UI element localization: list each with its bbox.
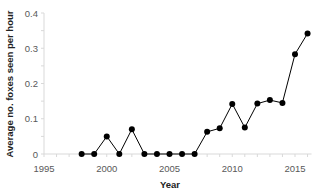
data-point-marker xyxy=(292,51,298,57)
data-point-marker xyxy=(116,151,122,157)
series-line xyxy=(82,33,308,154)
data-point-marker xyxy=(129,126,135,132)
data-point-marker xyxy=(192,151,198,157)
data-series xyxy=(79,30,311,157)
data-point-marker xyxy=(229,101,235,107)
data-point-marker xyxy=(91,151,97,157)
data-point-marker xyxy=(267,97,273,103)
data-point-marker xyxy=(204,129,210,135)
data-point-marker xyxy=(242,125,248,131)
y-tick-label: 0.3 xyxy=(25,43,38,54)
axes xyxy=(41,13,312,157)
line-chart: 00.10.20.30.419952000200520102015 Year A… xyxy=(0,0,317,195)
y-axis-title: Average no. foxes seen per hour xyxy=(4,10,15,157)
data-point-marker xyxy=(104,133,110,139)
x-tick-label: 2010 xyxy=(222,163,243,174)
y-tick-label: 0.4 xyxy=(25,8,38,19)
data-point-marker xyxy=(217,125,223,131)
y-tick-label: 0.1 xyxy=(25,113,38,124)
x-axis-title: Year xyxy=(160,179,180,190)
x-tick-label: 2005 xyxy=(159,163,180,174)
data-point-marker xyxy=(179,151,185,157)
x-tick-label: 1995 xyxy=(33,163,54,174)
tick-labels: 00.10.20.30.419952000200520102015 xyxy=(25,8,306,175)
x-tick-label: 2000 xyxy=(96,163,117,174)
data-point-marker xyxy=(279,100,285,106)
y-tick-label: 0 xyxy=(33,149,38,160)
data-point-marker xyxy=(305,30,311,36)
data-point-marker xyxy=(141,151,147,157)
data-point-marker xyxy=(254,101,260,107)
x-tick-label: 2015 xyxy=(284,163,305,174)
data-point-marker xyxy=(79,151,85,157)
y-tick-label: 0.2 xyxy=(25,78,38,89)
data-point-marker xyxy=(167,151,173,157)
data-point-marker xyxy=(154,151,160,157)
